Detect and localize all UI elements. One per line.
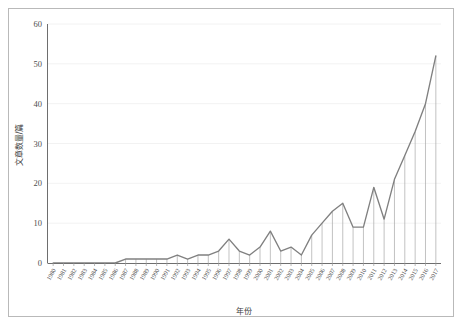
x-tick-label: 1985 [96, 267, 108, 281]
x-tick-label: 2005 [303, 267, 315, 281]
x-tick-label: 1988 [128, 267, 140, 281]
y-tick-label: 60 [34, 19, 43, 29]
x-tick-label: 2006 [314, 267, 326, 281]
x-tick-label: 1980 [45, 267, 57, 281]
x-tick-labels-group: 1980198119821983198419851986198719881989… [45, 263, 440, 281]
y-tick-label: 40 [34, 99, 43, 109]
line-chart-svg: 0102030405060 19801981198219831984198519… [0, 0, 462, 325]
x-tick-label: 1993 [179, 267, 191, 281]
chart-plot-area: 0102030405060 19801981198219831984198519… [0, 0, 462, 325]
x-tick-label: 2013 [386, 267, 398, 281]
x-tick-label: 2007 [324, 267, 336, 281]
x-tick-label: 1991 [159, 267, 171, 281]
y-tick-label: 10 [34, 218, 43, 228]
x-tick-label: 1981 [55, 267, 67, 281]
x-tick-label: 2016 [417, 267, 429, 281]
x-axis-title: 年份 [236, 306, 252, 316]
droplines-group [126, 56, 436, 263]
x-tick-label: 2014 [396, 267, 408, 281]
y-tick-labels-group: 0102030405060 [34, 19, 43, 268]
x-tick-label: 1983 [76, 267, 88, 281]
x-tick-label: 2010 [355, 267, 367, 281]
x-tick-label: 1990 [148, 267, 160, 281]
y-tick-label: 30 [34, 139, 43, 149]
y-axis-title: 文章数量/篇 [14, 124, 24, 167]
y-tick-label: 50 [34, 59, 43, 69]
gridlines-group [48, 24, 441, 223]
x-tick-label: 2003 [283, 267, 295, 281]
x-tick-label: 1989 [138, 267, 150, 281]
x-tick-label: 2011 [366, 267, 378, 281]
x-tick-label: 1999 [241, 267, 253, 281]
x-tick-label: 2009 [345, 267, 357, 281]
x-tick-label: 1982 [65, 267, 77, 281]
x-tick-label: 2015 [407, 267, 419, 281]
x-tick-label: 2017 [427, 267, 439, 281]
x-tick-label: 1984 [86, 267, 98, 281]
x-tick-label: 2002 [272, 267, 284, 281]
x-tick-label: 2004 [293, 267, 305, 281]
x-tick-label: 1998 [231, 267, 243, 281]
x-tick-label: 1987 [117, 267, 129, 281]
chart-figure: 0102030405060 19801981198219831984198519… [0, 0, 462, 325]
x-tick-label: 2012 [376, 267, 388, 281]
x-tick-label: 1996 [210, 267, 222, 281]
x-tick-label: 1997 [221, 267, 233, 281]
x-tick-label: 1994 [190, 267, 202, 281]
x-tick-label: 2001 [262, 267, 274, 281]
series-line-articles [53, 56, 436, 263]
x-tick-label: 1992 [169, 267, 181, 281]
x-tick-label: 2008 [334, 267, 346, 281]
x-tick-label: 1986 [107, 267, 119, 281]
y-tick-label: 0 [38, 258, 42, 268]
x-tick-label: 2000 [252, 267, 264, 281]
x-tick-label: 1995 [200, 267, 212, 281]
y-tick-label: 20 [34, 178, 43, 188]
